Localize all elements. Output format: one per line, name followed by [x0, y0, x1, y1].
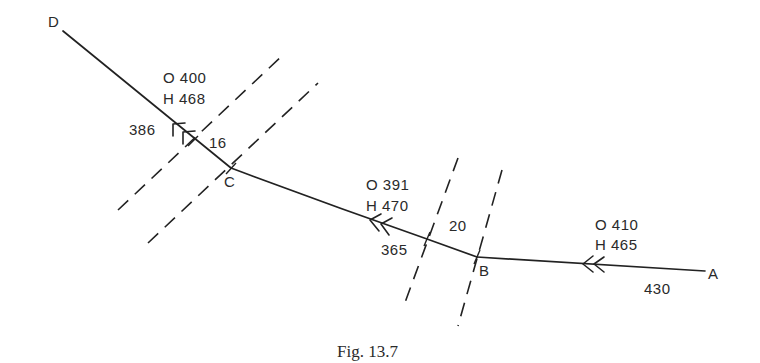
- route-leg-a-b: [477, 257, 705, 271]
- leg-ab-distance: 430: [644, 280, 671, 297]
- dashed-boundary-b-2: [458, 170, 502, 326]
- route-leg-c-d: [63, 31, 231, 168]
- leg-cd-course: O 400: [163, 69, 206, 86]
- zone-b-width: 20: [449, 217, 467, 234]
- point-label-c: C: [224, 173, 235, 190]
- route-diagram: D C B A O 400 H 468 386 16 O 391 H 470 3…: [0, 0, 760, 363]
- leg-cd-distance: 386: [129, 121, 156, 138]
- figure-caption: Fig. 13.7: [337, 342, 398, 361]
- point-label-a: A: [708, 265, 718, 282]
- point-label-d: D: [48, 13, 59, 30]
- leg-ab-course: O 410: [595, 216, 638, 233]
- route-leg-b-c: [231, 168, 477, 257]
- leg-bc-distance: 365: [381, 241, 408, 258]
- dashed-boundary-c-2: [148, 83, 318, 243]
- double-arrow-icon-bc: [370, 214, 392, 235]
- zone-c-width: 16: [209, 134, 227, 151]
- point-label-b: B: [479, 262, 489, 279]
- leg-bc-course: O 391: [366, 176, 409, 193]
- leg-bc-heading: H 470: [366, 197, 409, 214]
- leg-ab-heading: H 465: [595, 236, 638, 253]
- leg-cd-heading: H 468: [163, 90, 206, 107]
